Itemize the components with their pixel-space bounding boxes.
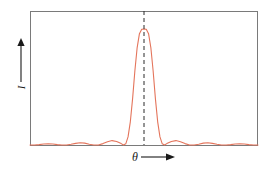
intensity-curve-layer	[30, 11, 258, 146]
arrow-up-icon	[15, 38, 27, 82]
y-axis-label-group: I	[12, 38, 30, 98]
y-axis-label: I	[16, 79, 27, 97]
arrow-right-icon	[141, 152, 175, 162]
x-axis-label-group: θ	[132, 148, 175, 166]
x-axis-label: θ	[132, 151, 138, 163]
diffraction-figure: I θ	[0, 0, 268, 171]
